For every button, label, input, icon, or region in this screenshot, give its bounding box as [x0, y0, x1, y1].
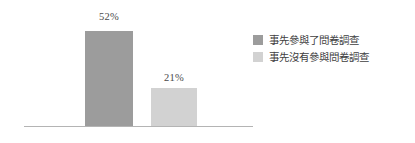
legend-item-1: 事先參與了問卷調查: [253, 32, 413, 48]
legend-label-2: 事先沒有參與問卷調查: [269, 51, 369, 63]
legend-swatch-icon-1: [253, 35, 263, 45]
bar-value-label-1: 52%: [85, 11, 133, 22]
plot-area: 52% 21%: [0, 0, 260, 143]
bar-value-label-2: 21%: [151, 72, 197, 83]
bar-series-1: [85, 31, 133, 127]
legend-item-2: 事先沒有參與問卷調查: [253, 49, 413, 65]
legend-swatch-icon-2: [253, 52, 263, 62]
x-axis-line: [24, 126, 253, 127]
bar-series-2: [151, 88, 197, 127]
legend-label-1: 事先參與了問卷調查: [269, 34, 359, 46]
bar-chart: 52% 21% 事先參與了問卷調查 事先沒有參與問卷調查: [0, 0, 415, 143]
chart-legend: 事先參與了問卷調查 事先沒有參與問卷調查: [253, 32, 413, 66]
